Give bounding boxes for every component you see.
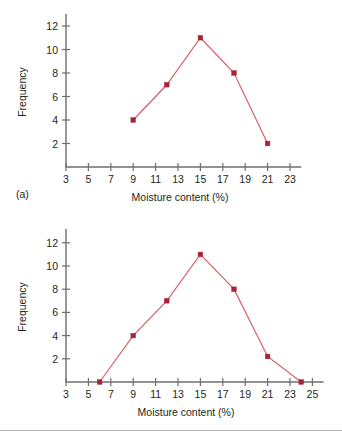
y-tick-label: 4	[52, 114, 58, 126]
bottom-divider	[0, 430, 342, 431]
data-point-marker	[265, 354, 270, 359]
x-tick-label: 5	[85, 388, 91, 400]
x-tick-label: 3	[63, 388, 69, 400]
y-tick-label: 12	[46, 20, 58, 32]
x-tick-label: 7	[108, 173, 114, 185]
x-tick-label: 7	[108, 388, 114, 400]
x-tick-label: 17	[217, 173, 229, 185]
data-point-marker	[232, 71, 237, 76]
x-tick-label: 11	[150, 388, 161, 400]
x-tick-label: 9	[130, 388, 136, 400]
chart-panel-a: 35791113151719212324681012Moisture conte…	[0, 0, 342, 215]
x-tick-label: 15	[195, 388, 207, 400]
x-tick-label: 25	[307, 388, 319, 400]
x-tick-label: 11	[150, 173, 161, 185]
x-axis-title: Moisture content (%)	[138, 406, 235, 418]
data-point-marker	[265, 141, 270, 146]
y-tick-label: 6	[52, 306, 58, 318]
chart-panel-b: 3579111315171921232524681012Moisture con…	[0, 215, 342, 430]
y-axis-title: Frequency	[16, 66, 28, 116]
data-point-marker	[165, 299, 170, 304]
data-point-marker	[97, 380, 102, 385]
series-line	[133, 38, 267, 144]
x-tick-label: 3	[63, 173, 69, 185]
panel-caption-a: (a)	[16, 188, 29, 200]
data-point-marker	[299, 380, 304, 385]
y-tick-label: 6	[52, 91, 58, 103]
x-tick-label: 17	[217, 388, 229, 400]
x-tick-label: 23	[284, 388, 296, 400]
y-tick-label: 12	[46, 237, 58, 249]
x-tick-label: 9	[130, 173, 136, 185]
x-tick-label: 23	[284, 173, 296, 185]
data-point-marker	[232, 287, 237, 292]
x-tick-label: 15	[195, 173, 207, 185]
line-chart-b: 3579111315171921232524681012Moisture con…	[0, 215, 342, 430]
x-tick-label: 13	[172, 173, 184, 185]
data-point-marker	[165, 82, 170, 87]
x-tick-label: 19	[239, 388, 251, 400]
x-axis-title: Moisture content (%)	[132, 191, 229, 203]
y-axis-title: Frequency	[16, 281, 28, 331]
figure-root: 35791113151719212324681012Moisture conte…	[0, 0, 342, 437]
y-tick-label: 10	[46, 44, 58, 56]
line-chart-a: 35791113151719212324681012Moisture conte…	[0, 0, 342, 215]
data-point-marker	[198, 252, 203, 257]
y-tick-label: 10	[46, 260, 58, 272]
x-tick-label: 5	[85, 173, 91, 185]
y-tick-label: 2	[52, 138, 58, 150]
x-tick-label: 13	[172, 388, 184, 400]
series-line	[100, 254, 302, 382]
y-tick-label: 8	[52, 283, 58, 295]
y-tick-label: 8	[52, 67, 58, 79]
data-point-marker	[131, 118, 136, 123]
data-point-marker	[131, 333, 136, 338]
x-tick-label: 21	[262, 173, 274, 185]
data-point-marker	[198, 35, 203, 40]
x-tick-label: 21	[262, 388, 274, 400]
y-tick-label: 2	[52, 353, 58, 365]
x-tick-label: 19	[239, 173, 251, 185]
y-tick-label: 4	[52, 330, 58, 342]
